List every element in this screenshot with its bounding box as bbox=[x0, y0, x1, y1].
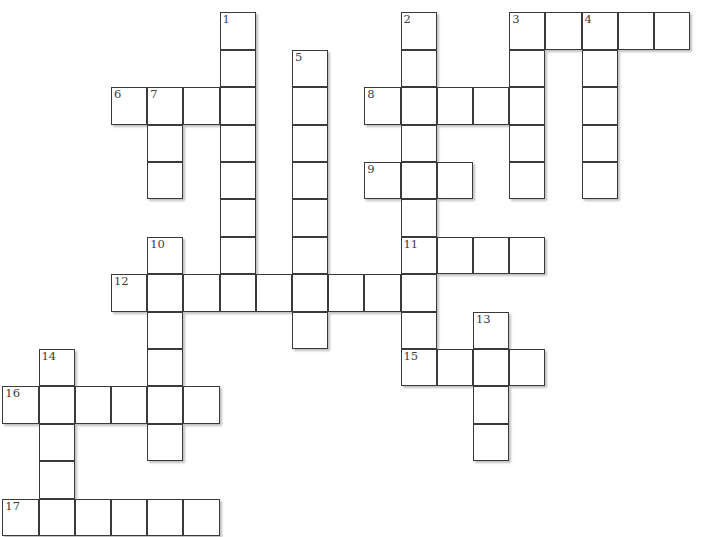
crossword-cell[interactable] bbox=[147, 424, 183, 461]
crossword-cell[interactable] bbox=[654, 12, 690, 49]
crossword-cell[interactable]: 1 bbox=[220, 12, 256, 49]
crossword-cell[interactable] bbox=[147, 349, 183, 386]
crossword-cell[interactable] bbox=[401, 274, 437, 311]
crossword-cell[interactable]: 9 bbox=[364, 162, 400, 199]
crossword-cell[interactable] bbox=[147, 162, 183, 199]
crossword-cell[interactable] bbox=[183, 274, 219, 311]
clue-number: 5 bbox=[295, 52, 302, 64]
crossword-cell[interactable] bbox=[256, 274, 292, 311]
crossword-cell[interactable] bbox=[401, 162, 437, 199]
crossword-grid: 1234567891011121314151617 bbox=[0, 0, 702, 537]
crossword-cell[interactable] bbox=[147, 386, 183, 423]
crossword-cell[interactable] bbox=[147, 312, 183, 349]
crossword-cell[interactable]: 2 bbox=[401, 12, 437, 49]
crossword-cell[interactable] bbox=[39, 424, 75, 461]
crossword-cell[interactable] bbox=[364, 274, 400, 311]
crossword-cell[interactable] bbox=[509, 349, 545, 386]
clue-number: 7 bbox=[150, 89, 157, 101]
crossword-cell[interactable] bbox=[545, 12, 581, 49]
crossword-cell[interactable] bbox=[183, 386, 219, 423]
crossword-cell[interactable] bbox=[220, 50, 256, 87]
clue-number: 3 bbox=[512, 14, 519, 26]
crossword-cell[interactable] bbox=[75, 386, 111, 423]
crossword-cell[interactable] bbox=[220, 274, 256, 311]
crossword-cell[interactable] bbox=[401, 125, 437, 162]
crossword-cell[interactable] bbox=[147, 125, 183, 162]
crossword-cell[interactable] bbox=[509, 50, 545, 87]
crossword-cell[interactable]: 10 bbox=[147, 237, 183, 274]
clue-number: 14 bbox=[42, 351, 57, 363]
crossword-cell[interactable] bbox=[473, 349, 509, 386]
crossword-cell[interactable] bbox=[582, 162, 618, 199]
crossword-cell[interactable]: 3 bbox=[509, 12, 545, 49]
crossword-cell[interactable] bbox=[509, 87, 545, 124]
crossword-cell[interactable] bbox=[183, 87, 219, 124]
clue-number: 4 bbox=[585, 14, 592, 26]
crossword-cell[interactable]: 17 bbox=[2, 499, 38, 536]
crossword-cell[interactable] bbox=[39, 461, 75, 498]
crossword-cell[interactable] bbox=[473, 87, 509, 124]
crossword-cell[interactable] bbox=[292, 199, 328, 236]
crossword-cell[interactable] bbox=[147, 499, 183, 536]
clue-number: 1 bbox=[223, 14, 230, 26]
crossword-cell[interactable] bbox=[220, 125, 256, 162]
crossword-cell[interactable] bbox=[437, 87, 473, 124]
crossword-cell[interactable]: 8 bbox=[364, 87, 400, 124]
crossword-cell[interactable] bbox=[582, 125, 618, 162]
crossword-cell[interactable]: 12 bbox=[111, 274, 147, 311]
crossword-cell[interactable] bbox=[437, 349, 473, 386]
crossword-cell[interactable]: 6 bbox=[111, 87, 147, 124]
crossword-cell[interactable] bbox=[292, 125, 328, 162]
crossword-cell[interactable] bbox=[401, 312, 437, 349]
crossword-cell[interactable] bbox=[292, 237, 328, 274]
crossword-cell[interactable] bbox=[473, 237, 509, 274]
clue-number: 8 bbox=[367, 89, 374, 101]
crossword-cell[interactable] bbox=[75, 499, 111, 536]
clue-number: 13 bbox=[476, 314, 491, 326]
crossword-cell[interactable]: 14 bbox=[39, 349, 75, 386]
crossword-cell[interactable] bbox=[473, 386, 509, 423]
crossword-cell[interactable] bbox=[509, 162, 545, 199]
crossword-cell[interactable] bbox=[220, 162, 256, 199]
crossword-cell[interactable]: 13 bbox=[473, 312, 509, 349]
crossword-cell[interactable] bbox=[437, 162, 473, 199]
clue-number: 12 bbox=[114, 276, 129, 288]
crossword-cell[interactable] bbox=[582, 87, 618, 124]
crossword-cell[interactable] bbox=[328, 274, 364, 311]
crossword-cell[interactable] bbox=[582, 50, 618, 87]
crossword-cell[interactable]: 16 bbox=[2, 386, 38, 423]
clue-number: 15 bbox=[404, 351, 419, 363]
crossword-cell[interactable] bbox=[292, 87, 328, 124]
crossword-cell[interactable] bbox=[292, 162, 328, 199]
crossword-cell[interactable] bbox=[437, 237, 473, 274]
crossword-cell[interactable]: 5 bbox=[292, 50, 328, 87]
crossword-cell[interactable] bbox=[473, 424, 509, 461]
crossword-cell[interactable] bbox=[147, 274, 183, 311]
crossword-cell[interactable] bbox=[401, 87, 437, 124]
clue-number: 16 bbox=[5, 388, 20, 400]
crossword-cell[interactable] bbox=[111, 386, 147, 423]
crossword-cell[interactable] bbox=[220, 237, 256, 274]
clue-number: 11 bbox=[404, 239, 419, 251]
crossword-cell[interactable] bbox=[220, 87, 256, 124]
crossword-cell[interactable] bbox=[39, 499, 75, 536]
clue-number: 6 bbox=[114, 89, 121, 101]
clue-number: 2 bbox=[404, 14, 411, 26]
crossword-cell[interactable]: 11 bbox=[401, 237, 437, 274]
crossword-cell[interactable] bbox=[220, 199, 256, 236]
crossword-cell[interactable]: 7 bbox=[147, 87, 183, 124]
crossword-cell[interactable] bbox=[401, 199, 437, 236]
crossword-cell[interactable] bbox=[39, 386, 75, 423]
clue-number: 9 bbox=[367, 164, 374, 176]
crossword-cell[interactable] bbox=[111, 499, 147, 536]
crossword-cell[interactable]: 15 bbox=[401, 349, 437, 386]
crossword-cell[interactable] bbox=[401, 50, 437, 87]
crossword-cell[interactable] bbox=[292, 274, 328, 311]
crossword-cell[interactable] bbox=[292, 312, 328, 349]
clue-number: 17 bbox=[5, 501, 20, 513]
crossword-cell[interactable] bbox=[618, 12, 654, 49]
crossword-cell[interactable] bbox=[509, 237, 545, 274]
crossword-cell[interactable] bbox=[183, 499, 219, 536]
crossword-cell[interactable]: 4 bbox=[582, 12, 618, 49]
crossword-cell[interactable] bbox=[509, 125, 545, 162]
